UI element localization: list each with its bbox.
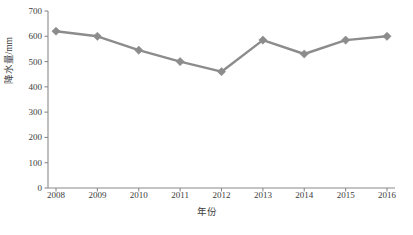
x-tick-label: 2015 bbox=[326, 191, 366, 200]
data-point-marker bbox=[300, 50, 308, 58]
data-point-marker bbox=[52, 27, 60, 35]
x-tick-label: 2016 bbox=[367, 191, 407, 200]
x-tick-label: 2014 bbox=[284, 191, 324, 200]
x-tick-label: 2013 bbox=[243, 191, 283, 200]
precipitation-line-chart: 降水量/mm 0100200300400500600700 2008200920… bbox=[0, 0, 413, 235]
x-tick-label: 2009 bbox=[77, 191, 117, 200]
data-point-marker bbox=[176, 57, 184, 65]
data-point-marker bbox=[135, 46, 143, 54]
x-tick-label: 2011 bbox=[160, 191, 200, 200]
data-point-marker bbox=[383, 32, 391, 40]
x-axis-title: 年份 bbox=[0, 208, 413, 218]
x-tick-label: 2010 bbox=[119, 191, 159, 200]
x-tick-label: 2008 bbox=[36, 191, 76, 200]
data-point-marker bbox=[342, 36, 350, 44]
data-line-precipitation bbox=[56, 31, 387, 71]
data-point-marker bbox=[93, 32, 101, 40]
x-tick-label: 2012 bbox=[202, 191, 242, 200]
